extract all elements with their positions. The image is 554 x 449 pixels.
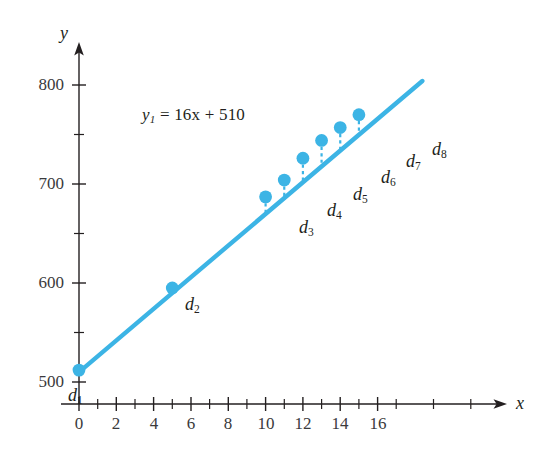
residual-scatter-figure: y x 800 700 600 500 0 2 4 6 8 10 12 14 1… — [0, 0, 554, 449]
point-label-d7: d7 — [406, 152, 421, 173]
data-point-d6 — [315, 134, 328, 147]
x-tick-label-2: 2 — [106, 415, 126, 432]
point-label-d5-base: d — [353, 184, 362, 204]
point-label-d1-base: d — [68, 385, 77, 405]
x-tick-label-8: 8 — [218, 415, 238, 432]
plot-canvas — [0, 0, 554, 449]
point-label-d6-sub: 6 — [390, 176, 396, 188]
point-label-d7-base: d — [406, 151, 415, 171]
point-label-d5: d5 — [353, 185, 368, 206]
data-point-d5 — [297, 152, 310, 165]
point-label-d1: d1 — [68, 386, 83, 407]
data-point-d8 — [353, 108, 366, 121]
point-label-d5-sub: 5 — [362, 193, 368, 205]
y-tick-label-800: 800 — [22, 76, 64, 93]
x-axis-title: x — [516, 394, 524, 412]
x-tick-label-10: 10 — [252, 415, 280, 432]
y-tick-label-600: 600 — [22, 274, 64, 291]
x-tick-label-16: 16 — [364, 415, 392, 432]
equation-body: = 16x + 510 — [155, 105, 245, 124]
y-tick-label-700: 700 — [22, 175, 64, 192]
point-label-d3-base: d — [299, 217, 308, 237]
equation-annotation: y1 = 16x + 510 — [142, 106, 245, 125]
point-label-d4-base: d — [327, 200, 336, 220]
x-tick-label-4: 4 — [144, 415, 164, 432]
data-point-d7 — [334, 121, 347, 134]
x-tick-label-12: 12 — [289, 415, 317, 432]
point-label-d4: d4 — [327, 201, 342, 222]
point-label-d8-sub: 8 — [441, 148, 447, 160]
point-label-d2-sub: 2 — [194, 303, 200, 315]
data-point-d2 — [166, 282, 179, 295]
data-point-d4 — [278, 174, 291, 187]
data-point-d3 — [259, 190, 272, 203]
point-label-d8-base: d — [432, 139, 441, 159]
point-label-d6-base: d — [381, 167, 390, 187]
point-label-d2-base: d — [185, 294, 194, 314]
point-label-d8: d8 — [432, 140, 447, 161]
point-label-d6: d6 — [381, 168, 396, 189]
regression-line — [79, 81, 422, 372]
point-label-d7-sub: 7 — [415, 160, 421, 172]
point-label-d3-sub: 3 — [308, 226, 314, 238]
data-point-d1 — [73, 364, 86, 377]
point-label-d1-sub: 1 — [77, 394, 83, 406]
x-tick-label-14: 14 — [326, 415, 354, 432]
y-tick-label-500: 500 — [22, 373, 64, 390]
x-tick-label-0: 0 — [69, 415, 89, 432]
y-axis-title: y — [60, 24, 68, 42]
point-label-d2: d2 — [185, 295, 200, 316]
point-label-d4-sub: 4 — [336, 209, 342, 221]
x-tick-label-6: 6 — [181, 415, 201, 432]
equation-y-symbol: y — [142, 105, 150, 124]
y-axis-group — [74, 42, 84, 404]
point-label-d3: d3 — [299, 218, 314, 239]
